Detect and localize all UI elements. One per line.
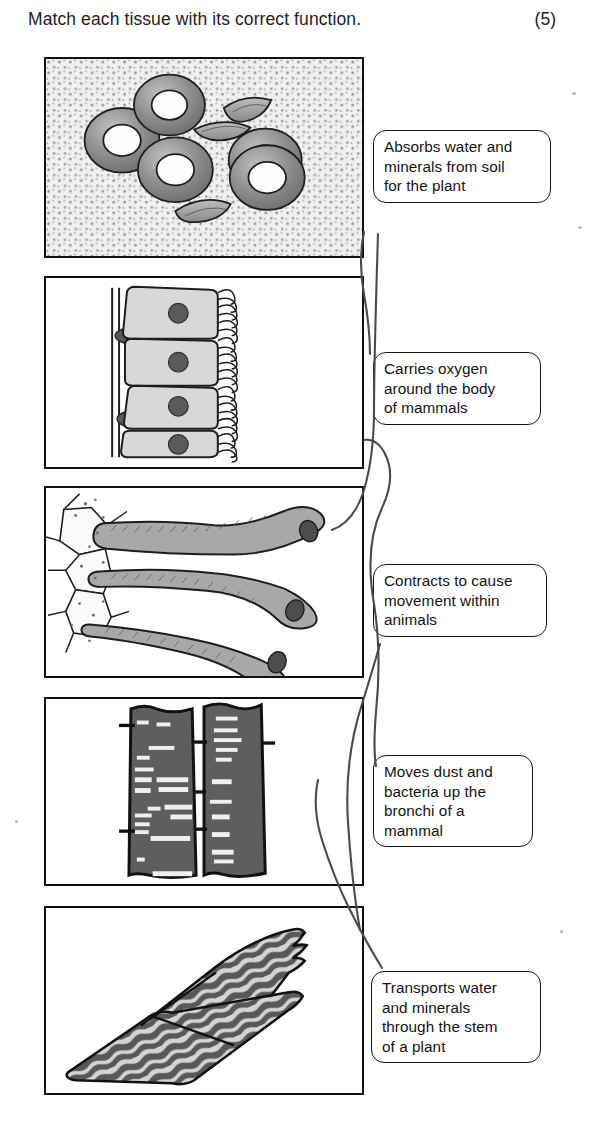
label-line: Transports water (382, 978, 531, 998)
label-line: movement within (384, 591, 537, 611)
label-line: for the plant (384, 176, 541, 196)
label-line: animals (384, 610, 537, 630)
label-moves-dust[interactable]: Moves dust and bacteria up the bronchi o… (373, 755, 533, 847)
label-line: of a plant (382, 1037, 531, 1057)
label-line: Contracts to cause (384, 571, 537, 591)
panel-root-hair-cells[interactable] (44, 486, 364, 678)
label-line: of mammals (384, 398, 531, 418)
label-carries-oxygen[interactable]: Carries oxygen around the body of mammal… (373, 352, 541, 425)
label-transports[interactable]: Transports water and minerals through th… (371, 971, 541, 1063)
xylem-vessels-diagram (46, 699, 362, 884)
label-line: minerals from soil (384, 157, 541, 177)
panel-ciliated-epithelium[interactable] (44, 276, 364, 469)
label-line: around the body (384, 379, 531, 399)
scan-speck (15, 820, 18, 823)
blood-smear-diagram (46, 59, 362, 256)
label-line: bacteria up the (384, 782, 523, 802)
panel-blood-smear[interactable] (44, 57, 364, 258)
label-line: through the stem (382, 1017, 531, 1037)
muscle-fibres-diagram (46, 908, 362, 1093)
label-absorbs-water[interactable]: Absorbs water and minerals from soil for… (373, 130, 551, 203)
question-marks: (5) (535, 6, 556, 32)
scan-speck (578, 226, 582, 229)
label-line: and minerals (382, 998, 531, 1018)
panel-muscle-fibres[interactable] (44, 906, 364, 1095)
scan-speck (572, 92, 576, 95)
panel-xylem-vessels[interactable] (44, 697, 364, 886)
question-text: Match each tissue with its correct funct… (28, 6, 361, 32)
label-line: Moves dust and (384, 762, 523, 782)
label-line: bronchi of a (384, 801, 523, 821)
worksheet-page: Match each tissue with its correct funct… (0, 0, 590, 1130)
root-hair-cells-diagram (46, 488, 362, 676)
label-line: Carries oxygen (384, 359, 531, 379)
question-header: Match each tissue with its correct funct… (28, 6, 568, 40)
label-line: mammal (384, 821, 523, 841)
label-contracts[interactable]: Contracts to cause movement within anima… (373, 564, 547, 637)
ciliated-epithelium-diagram (46, 278, 362, 467)
label-line: Absorbs water and (384, 137, 541, 157)
scan-speck (560, 930, 563, 933)
